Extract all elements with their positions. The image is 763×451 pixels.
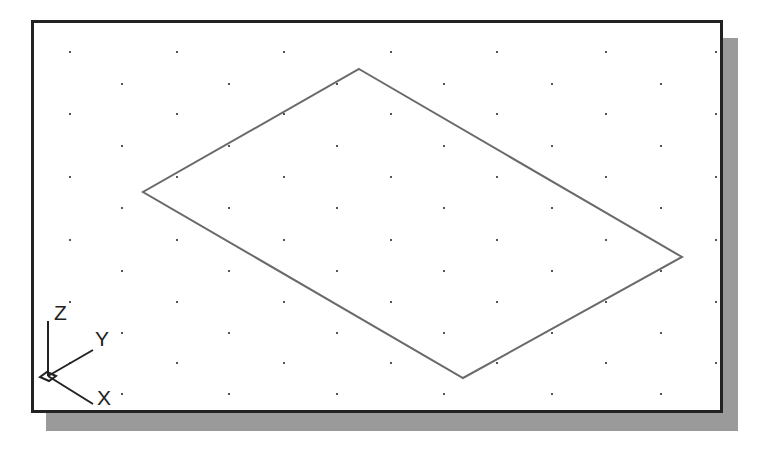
grid-dot <box>336 270 338 272</box>
grid-dot <box>390 239 392 241</box>
grid-dot <box>443 83 445 85</box>
grid-dot <box>551 393 553 395</box>
grid-dot <box>121 145 123 147</box>
grid-dot <box>660 207 662 209</box>
grid-dot <box>69 113 71 115</box>
grid-dot <box>69 51 71 53</box>
grid-dot <box>283 239 285 241</box>
x-axis-label: X <box>97 386 111 409</box>
grid-dot <box>443 393 445 395</box>
grid-dot <box>551 207 553 209</box>
grid-dot <box>283 113 285 115</box>
grid-dot <box>660 393 662 395</box>
grid-dot <box>605 301 607 303</box>
grid-dot <box>715 239 717 241</box>
grid-dot <box>443 270 445 272</box>
grid-dot <box>605 113 607 115</box>
grid-dot <box>605 176 607 178</box>
grid-dot <box>176 239 178 241</box>
grid-dot <box>443 207 445 209</box>
grid-dot <box>551 83 553 85</box>
grid-dot <box>390 176 392 178</box>
x-axis-icon <box>48 376 93 404</box>
grid-dot <box>69 239 71 241</box>
grid-dot <box>121 207 123 209</box>
grid-dot <box>715 301 717 303</box>
grid-dot <box>176 51 178 53</box>
grid-dot <box>551 270 553 272</box>
grid-dot <box>390 51 392 53</box>
y-axis-label: Y <box>95 327 109 350</box>
grid-dot <box>660 83 662 85</box>
grid-dot <box>121 83 123 85</box>
grid-dot <box>176 362 178 364</box>
grid-dot <box>283 176 285 178</box>
grid-dot <box>283 301 285 303</box>
grid-dot <box>390 301 392 303</box>
grid-dot <box>121 270 123 272</box>
grid-dot <box>228 270 230 272</box>
grid-dot <box>496 301 498 303</box>
grid-dot <box>176 113 178 115</box>
grid-dot <box>660 332 662 334</box>
grid-dot <box>715 51 717 53</box>
grid-dot <box>715 176 717 178</box>
grid-dot <box>228 83 230 85</box>
grid-dot <box>228 145 230 147</box>
grid-dot <box>121 332 123 334</box>
grid-dot <box>336 145 338 147</box>
grid-dot <box>69 301 71 303</box>
grid-dot <box>715 362 717 364</box>
grid-dot <box>228 393 230 395</box>
grid-dot <box>496 176 498 178</box>
grid-dot <box>660 145 662 147</box>
y-axis-icon <box>48 350 93 376</box>
z-axis-label: Z <box>54 301 67 324</box>
grid-dot <box>715 113 717 115</box>
grid-dot <box>336 332 338 334</box>
grid-dot <box>496 113 498 115</box>
grid-dot <box>336 393 338 395</box>
grid-dot <box>283 362 285 364</box>
ucs-icon: Z Y X <box>40 301 111 409</box>
grid-dot <box>69 176 71 178</box>
grid-dot <box>176 176 178 178</box>
grid-dot <box>496 239 498 241</box>
grid-dot <box>605 239 607 241</box>
grid-dot <box>551 145 553 147</box>
grid-dot <box>660 270 662 272</box>
snap-grid <box>69 51 717 395</box>
grid-dot <box>443 332 445 334</box>
drawing-canvas[interactable]: Z Y X <box>0 0 763 451</box>
grid-dot <box>605 362 607 364</box>
grid-dot <box>390 362 392 364</box>
grid-dot <box>605 51 607 53</box>
grid-dot <box>551 332 553 334</box>
grid-dot <box>443 145 445 147</box>
grid-dot <box>390 113 392 115</box>
grid-dot <box>496 51 498 53</box>
grid-dot <box>336 207 338 209</box>
grid-dot <box>228 332 230 334</box>
grid-dot <box>121 393 123 395</box>
grid-dot <box>228 207 230 209</box>
grid-dot <box>336 83 338 85</box>
grid-dot <box>496 362 498 364</box>
grid-dot <box>176 301 178 303</box>
grid-dot <box>283 51 285 53</box>
isometric-rectangle[interactable] <box>143 69 682 378</box>
